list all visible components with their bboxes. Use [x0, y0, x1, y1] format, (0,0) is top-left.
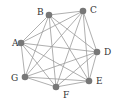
edge-A-G	[21, 43, 25, 77]
node-label-E: E	[96, 76, 103, 86]
edges	[21, 11, 97, 87]
node-label-C: C	[90, 5, 97, 15]
node-B	[46, 12, 53, 19]
node-A	[18, 40, 25, 47]
edge-B-C	[49, 11, 83, 15]
complete-graph-diagram: ABCDEFG	[0, 0, 121, 106]
node-label-G: G	[11, 73, 18, 83]
node-C	[80, 8, 87, 15]
edge-B-D	[49, 15, 97, 52]
node-D	[94, 49, 101, 56]
node-F	[53, 84, 60, 91]
edge-A-B	[21, 15, 49, 43]
node-E	[86, 78, 93, 85]
node-label-B: B	[37, 7, 44, 17]
node-label-A: A	[11, 38, 19, 48]
node-label-D: D	[104, 47, 111, 57]
edge-C-E	[83, 11, 89, 81]
node-label-F: F	[63, 90, 69, 100]
edge-B-E	[49, 15, 89, 81]
node-G	[22, 74, 29, 81]
edge-E-F	[56, 81, 89, 87]
edge-A-F	[21, 43, 56, 87]
